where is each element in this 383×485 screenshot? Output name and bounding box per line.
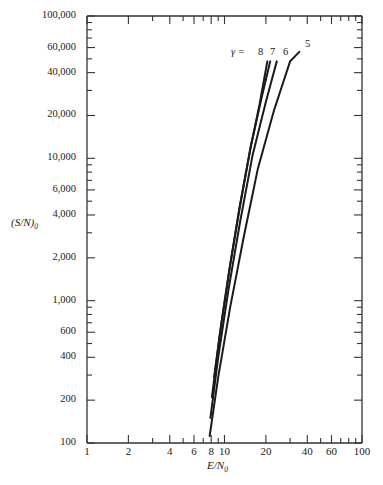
x-tick-label: 20 [246, 445, 286, 457]
axis-ticks [87, 16, 362, 443]
y-tick-label: 100,000 [0, 9, 76, 20]
y-tick-label: 60,000 [0, 41, 76, 52]
y-tick-label: 600 [0, 325, 76, 336]
curve-label-8-text: 8 [258, 46, 263, 57]
x-axis-title-text: E/N [207, 459, 224, 471]
y-tick-label: 40,000 [0, 66, 76, 77]
y-tick-label: 10,000 [0, 151, 76, 162]
curve-gamma-5 [210, 52, 300, 436]
y-axis-title-subscript: 0 [34, 222, 38, 231]
figure-container: 1002004006001,0002,0004,0006,00010,00020… [0, 0, 383, 485]
x-tick-label: 1 [67, 445, 107, 457]
data-curves [210, 52, 300, 436]
y-axis-title: (S/N)0 [11, 216, 38, 231]
y-tick-label: 400 [0, 350, 76, 361]
y-tick-label: 2,000 [0, 251, 76, 262]
y-axis-title-text: (S/N) [11, 216, 34, 228]
x-tick-label: 2 [108, 445, 148, 457]
y-tick-label: 100 [0, 436, 76, 447]
x-tick-label: 100 [342, 445, 382, 457]
x-axis-title: E/N0 [207, 459, 228, 474]
x-axis-title-subscript: 0 [224, 465, 228, 474]
curve-label-7: 7 [270, 46, 275, 57]
curve-label-8: 8 [258, 46, 263, 57]
curve-label-6: 6 [283, 46, 288, 57]
curve-label-6-text: 6 [283, 46, 288, 57]
y-tick-label: 1,000 [0, 294, 76, 305]
gamma-annotation: γ = [231, 46, 245, 57]
plot-frame [87, 16, 362, 443]
y-tick-label: 6,000 [0, 183, 76, 194]
y-tick-label: 20,000 [0, 108, 76, 119]
curve-label-5-text: 5 [305, 38, 310, 49]
curve-label-7-text: 7 [270, 46, 275, 57]
curve-label-5: 5 [305, 38, 310, 49]
gamma-symbol-label: γ = [231, 46, 245, 57]
x-tick-label: 10 [205, 445, 245, 457]
y-tick-label: 200 [0, 393, 76, 404]
